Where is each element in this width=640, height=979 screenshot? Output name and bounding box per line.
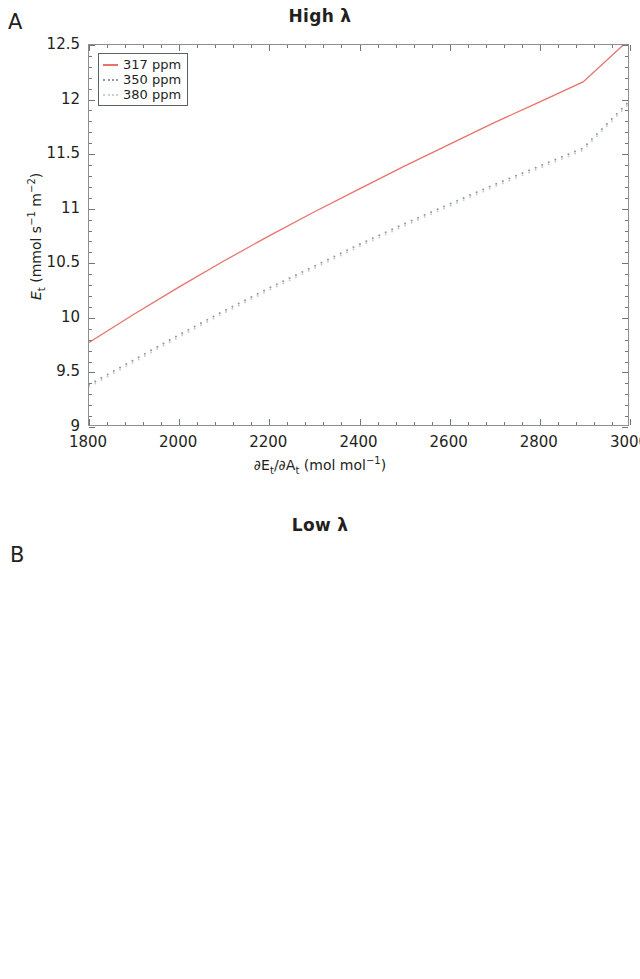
y-tick (622, 154, 628, 155)
x-tick-minor (414, 422, 415, 425)
x-tick-minor (215, 45, 216, 48)
y-tick-minor (625, 340, 628, 341)
x-tick-minor (558, 45, 559, 48)
legend-item: 317 ppm (102, 57, 181, 72)
y-tick-minor (89, 89, 92, 90)
y-tick-minor (625, 329, 628, 330)
y-tick-minor (89, 231, 92, 232)
x-tick (540, 45, 541, 51)
x-tick-minor (287, 422, 288, 425)
x-tick-minor (396, 422, 397, 425)
y-tick (89, 45, 95, 46)
x-tick-label: 2400 (339, 433, 377, 451)
panel-a-x-axis-title: ∂Et/∂At (mol mol−1) (0, 455, 640, 475)
x-tick-minor (341, 45, 342, 48)
y-tick-minor (625, 252, 628, 253)
x-tick-minor (522, 45, 523, 48)
x-tick-minor (468, 45, 469, 48)
y-tick-minor (89, 394, 92, 395)
x-tick-minor (161, 422, 162, 425)
y-tick (622, 318, 628, 319)
x-tick-minor (305, 422, 306, 425)
y-tick-label: 12 (30, 90, 80, 108)
x-tick-minor (612, 45, 613, 48)
y-tick-minor (89, 362, 92, 363)
y-tick-minor (625, 220, 628, 221)
y-tick-minor (89, 176, 92, 177)
y-tick-minor (89, 220, 92, 221)
x-tick-minor (323, 422, 324, 425)
x-tick-minor (197, 45, 198, 48)
x-tick-minor (341, 422, 342, 425)
panel-b-title: Low λ (0, 515, 640, 535)
y-tick-minor (625, 274, 628, 275)
x-tick (540, 419, 541, 425)
y-tick (89, 427, 95, 428)
y-tick (89, 318, 95, 319)
y-tick-minor (625, 296, 628, 297)
panel-a-y-axis-title: Et (mmol s−1 m−2) (26, 173, 46, 300)
x-tick-minor (612, 422, 613, 425)
y-tick (622, 372, 628, 373)
x-tick-minor (504, 422, 505, 425)
x-tick-minor (143, 422, 144, 425)
x-tick-minor (378, 45, 379, 48)
y-tick (622, 427, 628, 428)
y-tick (89, 154, 95, 155)
y-tick-minor (89, 416, 92, 417)
y-tick-minor (625, 351, 628, 352)
legend-label: 380 ppm (123, 87, 181, 102)
x-tick-minor (486, 422, 487, 425)
x-tick (89, 419, 90, 425)
x-tick-minor (251, 45, 252, 48)
panel-a: A High λ 317 ppm 350 ppm 380 ppm 1800200… (0, 0, 640, 495)
y-tick-minor (89, 121, 92, 122)
panel-a-title: High λ (0, 6, 640, 26)
y-tick-minor (625, 394, 628, 395)
y-tick (622, 209, 628, 210)
y-tick-label: 12.5 (30, 35, 80, 53)
x-tick-minor (432, 45, 433, 48)
x-tick-minor (287, 45, 288, 48)
x-tick (450, 419, 451, 425)
y-tick-minor (625, 187, 628, 188)
x-tick-minor (576, 422, 577, 425)
panel-a-legend: 317 ppm 350 ppm 380 ppm (98, 53, 188, 106)
x-tick-minor (396, 45, 397, 48)
y-tick-label: 9.5 (30, 362, 80, 380)
legend-label: 350 ppm (123, 72, 181, 87)
y-tick-minor (625, 285, 628, 286)
panel-b: B Low λ 317 ppm 350 ppm 380 ppm 25030035… (0, 495, 640, 979)
y-tick (89, 372, 95, 373)
legend-line-swatch-317 (102, 59, 119, 70)
y-tick-minor (625, 132, 628, 133)
y-tick-minor (89, 340, 92, 341)
x-tick (269, 45, 270, 51)
x-tick-minor (378, 422, 379, 425)
x-tick-minor (125, 422, 126, 425)
y-tick-minor (625, 416, 628, 417)
legend-item: 380 ppm (102, 87, 181, 102)
y-tick (622, 100, 628, 101)
y-tick-minor (89, 285, 92, 286)
y-tick-minor (89, 329, 92, 330)
x-tick-minor (432, 422, 433, 425)
x-tick (360, 419, 361, 425)
y-tick-minor (89, 252, 92, 253)
y-tick-minor (89, 383, 92, 384)
x-tick-minor (576, 45, 577, 48)
y-tick-minor (89, 78, 92, 79)
x-tick-label: 2600 (430, 433, 468, 451)
y-tick-minor (89, 296, 92, 297)
x-tick-label: 3000 (610, 433, 640, 451)
y-tick-minor (625, 78, 628, 79)
y-tick-minor (625, 307, 628, 308)
x-tick (630, 45, 631, 51)
y-tick-minor (625, 362, 628, 363)
y-tick-minor (625, 241, 628, 242)
x-tick-minor (143, 45, 144, 48)
x-tick-minor (251, 422, 252, 425)
x-tick-minor (414, 45, 415, 48)
y-tick-minor (89, 67, 92, 68)
x-tick-minor (504, 45, 505, 48)
